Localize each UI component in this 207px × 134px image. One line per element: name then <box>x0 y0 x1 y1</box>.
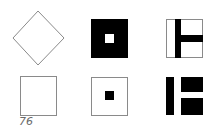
shape-figure <box>0 0 207 134</box>
square-outline-shape <box>21 77 57 116</box>
bar-and-two-blocks-shape <box>166 77 203 115</box>
square-outline-black-center-shape <box>92 78 128 116</box>
diamond-outline-shape <box>13 11 64 65</box>
black-square-white-center-shape <box>91 19 128 58</box>
figure-number-label: 76 <box>19 116 33 128</box>
square-with-t-bars-shape <box>167 19 204 58</box>
